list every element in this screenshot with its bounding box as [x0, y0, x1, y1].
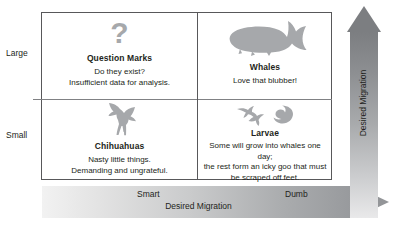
- quadrant-description-line: be scraped off feet.: [202, 173, 328, 184]
- quadrant-title: Question Marks: [46, 53, 193, 64]
- y-axis-arrow: Desired Migration: [347, 6, 381, 218]
- larvae-icon: [202, 103, 328, 127]
- x-axis-label-dumb: Dumb: [285, 189, 308, 199]
- y-axis-label-large: Large: [6, 48, 28, 58]
- quadrant-description-line: Insufficient data for analysis.: [46, 78, 193, 89]
- matrix-diagram: Large Small ? Question Marks Do they exi…: [0, 0, 399, 225]
- chihuahua-icon: [46, 102, 193, 139]
- quadrant-title: Larvae: [202, 128, 328, 139]
- quadrant-chihuahuas[interactable]: Chihuahuas Nasty little things. Demandin…: [42, 100, 197, 180]
- quadrant-title: Chihuahuas: [46, 141, 193, 152]
- x-axis-title: Desired Migration: [42, 201, 355, 211]
- x-axis-label-smart: Smart: [137, 189, 160, 199]
- whale-icon: [202, 15, 328, 59]
- quadrant-description-line: Nasty little things.: [46, 155, 193, 166]
- quadrant-question-marks[interactable]: ? Question Marks Do they exist? Insuffic…: [42, 13, 197, 99]
- y-axis-title: Desired Migration: [358, 13, 368, 193]
- quadrant-description-line: Some will grow into whales one day;: [202, 141, 328, 162]
- quadrant-larvae[interactable]: Larvae Some will grow into whales one da…: [198, 100, 332, 180]
- question-mark-icon: ?: [46, 18, 193, 48]
- quadrant-description-line: the rest form an icky goo that must: [202, 162, 328, 173]
- x-axis-arrow: Smart Dumb Desired Migration: [42, 186, 389, 218]
- quadrant-description-line: Demanding and ungrateful.: [46, 166, 193, 177]
- quadrant-title: Whales: [202, 62, 328, 73]
- quadrant-whales[interactable]: Whales Love that blubber!: [198, 13, 332, 99]
- quadrant-description-line: Do they exist?: [46, 67, 193, 78]
- y-axis-label-small: Small: [6, 130, 27, 140]
- quadrant-description-line: Love that blubber!: [202, 76, 328, 87]
